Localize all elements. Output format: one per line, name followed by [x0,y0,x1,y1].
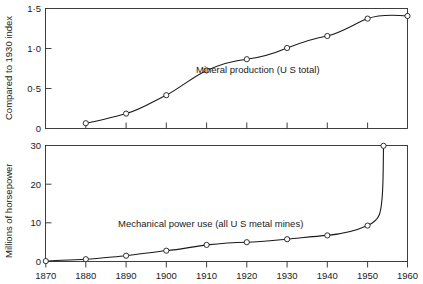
bottom-chart-ytick-label-4: 0 [36,256,41,267]
data-point [365,16,370,21]
bottom-chart-y-ticks [46,184,52,223]
bottom-chart-data-markers [43,143,386,264]
bottom-chart-xtick-label-1950: 1950 [357,270,378,281]
bottom-chart-series-line [46,146,384,261]
data-point [285,237,290,242]
figure-container: 1·5 1·0 0·5 0 Compared to 1930 index Min… [0,0,423,284]
top-chart: 1·5 1·0 0·5 0 Compared to 1930 index Min… [3,3,410,134]
data-point [285,45,290,50]
bottom-chart-xtick-label-1960: 1960 [397,270,418,281]
bottom-chart-xtick-label-1890: 1890 [116,270,137,281]
data-point [244,57,249,62]
data-point [381,143,386,148]
bottom-chart-xtick-label-1880: 1880 [75,270,96,281]
bottom-chart-xtick-label-1930: 1930 [277,270,298,281]
bottom-chart-ytick-label-3: 10 [30,217,41,228]
data-point [124,253,129,258]
top-chart-ytick-label-3: 0·5 [27,83,41,94]
data-point [83,121,88,126]
data-point [124,111,129,116]
data-point [43,259,48,264]
bottom-chart-xtick-label-1870: 1870 [35,270,56,281]
bottom-chart-ytick-label-1: 30 [30,140,41,151]
data-point [365,223,370,228]
data-point [244,240,249,245]
data-point [325,233,330,238]
top-chart-series-annotation: Mineral production (U S total) [196,64,320,75]
bottom-chart-ytick-label-2: 20 [30,179,41,190]
data-point [83,257,88,262]
data-point [204,242,209,247]
top-chart-ytick-label-4: 0 [36,123,41,134]
data-point [164,248,169,253]
bottom-chart-xtick-label-1940: 1940 [317,270,338,281]
bottom-chart-xtick-label-1900: 1900 [156,270,177,281]
top-chart-ytick-label-2: 1·0 [27,43,41,54]
data-point [405,13,410,18]
bottom-chart-xtick-label-1920: 1920 [236,270,257,281]
bottom-chart-x-ticks [46,262,408,268]
bottom-chart-plot-frame [46,146,408,262]
top-chart-y-ticks [46,49,52,89]
bottom-chart-y-axis-title: Millions of horsepower [3,163,14,258]
bottom-chart: 30 20 10 0 Millions of horsepower 1870 1… [3,140,418,281]
data-point [164,93,169,98]
top-chart-x-ticks [86,123,368,129]
bottom-chart-xtick-label-1910: 1910 [196,270,217,281]
bottom-chart-series-annotation: Mechanical power use (all U S metal mine… [118,218,303,229]
data-point [325,33,330,38]
top-chart-y-axis-title: Compared to 1930 index [3,16,14,120]
top-chart-ytick-label-1: 1·5 [27,3,41,14]
